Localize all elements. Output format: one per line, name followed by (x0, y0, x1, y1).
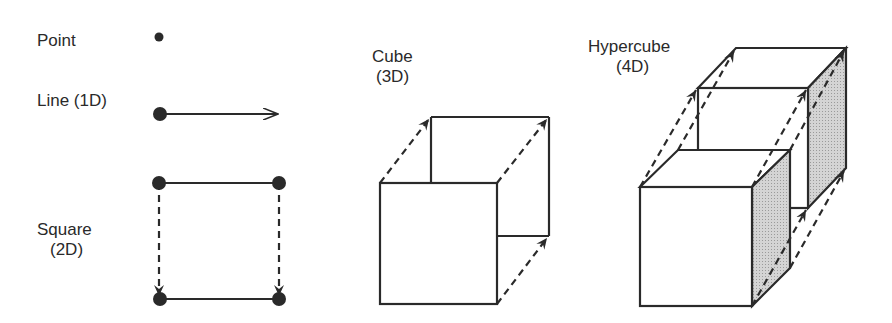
line-figure (153, 107, 278, 121)
square-figure (152, 176, 286, 306)
cube-figure (380, 117, 549, 304)
hypercube-figure (640, 48, 846, 306)
dimensions-diagram (0, 0, 892, 323)
point-dot (155, 33, 164, 42)
point-figure (155, 33, 164, 42)
